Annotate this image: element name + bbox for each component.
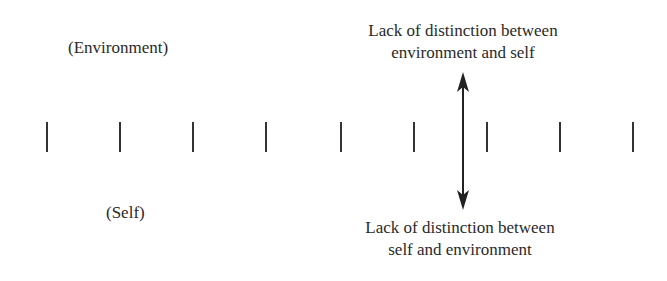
double-arrow-icon [0, 0, 667, 281]
